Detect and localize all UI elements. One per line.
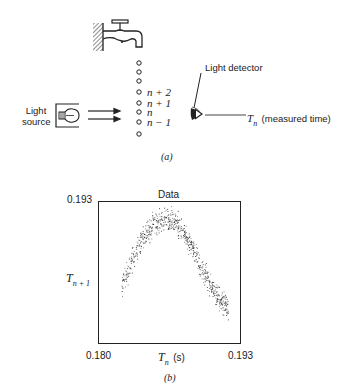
data-point [213, 286, 214, 287]
data-point [151, 233, 152, 234]
data-point [203, 274, 204, 275]
data-point [210, 274, 211, 275]
data-point [143, 236, 144, 237]
data-point [153, 218, 154, 219]
data-point [131, 269, 132, 270]
data-point [158, 223, 159, 224]
data-point [140, 251, 141, 252]
data-point [189, 237, 190, 238]
data-point [211, 292, 212, 293]
data-point [152, 230, 153, 231]
data-point [123, 274, 124, 275]
data-point [208, 277, 209, 278]
data-point [131, 261, 132, 262]
data-point [213, 296, 214, 297]
data-point [160, 219, 161, 220]
data-point [202, 268, 203, 269]
data-point [185, 234, 186, 235]
data-point [184, 225, 185, 226]
data-point [147, 237, 148, 238]
data-point [215, 304, 216, 305]
y-axis-label: Tn + 1 [66, 268, 90, 288]
data-point [203, 264, 204, 265]
data-point [217, 299, 218, 300]
data-point [152, 212, 153, 213]
data-point [216, 302, 217, 303]
data-point [161, 216, 162, 217]
data-point [175, 215, 176, 216]
data-point [126, 274, 127, 275]
data-point [156, 220, 157, 221]
data-point [170, 228, 171, 229]
measured-time-text: (measured time) [262, 113, 331, 124]
data-point [220, 300, 221, 301]
data-point [140, 253, 141, 254]
data-point [176, 225, 177, 226]
data-point [222, 293, 223, 294]
data-point [133, 254, 134, 255]
data-point [142, 235, 143, 236]
data-point [178, 227, 179, 228]
data-point [151, 220, 152, 221]
data-point [204, 269, 205, 270]
data-point [195, 256, 196, 257]
data-point [174, 218, 175, 219]
data-point [224, 298, 225, 299]
data-point [148, 225, 149, 226]
x-axis-subscript: n [165, 358, 169, 367]
data-point [159, 220, 160, 221]
data-point [159, 208, 160, 209]
data-point [226, 315, 227, 316]
data-point [228, 313, 229, 314]
data-point [157, 228, 158, 229]
data-point [190, 247, 191, 248]
data-point [225, 295, 226, 296]
data-point [177, 222, 178, 223]
data-point [207, 290, 208, 291]
data-point [219, 303, 220, 304]
data-point [146, 235, 147, 236]
measured-time-label: Tn (measured time) [247, 108, 331, 128]
data-point [194, 252, 195, 253]
data-point [224, 296, 225, 297]
data-point [161, 226, 162, 227]
data-point [209, 296, 210, 297]
data-point [199, 258, 200, 259]
data-point [154, 217, 155, 218]
data-point [123, 273, 124, 274]
data-point [171, 215, 172, 216]
data-point [215, 298, 216, 299]
data-point [153, 219, 154, 220]
data-point [178, 225, 179, 226]
data-point [177, 222, 178, 223]
data-point [180, 230, 181, 231]
data-point [140, 235, 141, 236]
data-point [208, 272, 209, 273]
data-point [188, 238, 189, 239]
data-point [219, 311, 220, 312]
data-point [169, 215, 170, 216]
data-point [212, 288, 213, 289]
data-point [188, 245, 189, 246]
data-point [159, 230, 160, 231]
data-point [157, 218, 158, 219]
data-point [151, 231, 152, 232]
data-point [124, 275, 125, 276]
data-point [146, 237, 147, 238]
chart-title: Data [158, 189, 179, 200]
data-point [183, 228, 184, 229]
data-point [136, 253, 137, 254]
data-point [204, 279, 205, 280]
x-tick-min: 0.180 [86, 350, 111, 361]
data-point [171, 210, 172, 211]
data-point [199, 274, 200, 275]
data-point [155, 233, 156, 234]
data-point [166, 210, 167, 211]
water-drop-icon [137, 79, 141, 83]
data-point [172, 221, 173, 222]
data-point [184, 228, 185, 229]
data-point [141, 246, 142, 247]
data-point [196, 255, 197, 256]
data-point [172, 212, 173, 213]
data-point [134, 261, 135, 262]
